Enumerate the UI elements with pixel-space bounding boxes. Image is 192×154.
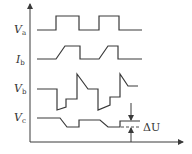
timing-diagram: Va Ib Vb Vc ΔU xyxy=(0,0,192,154)
waveform-va xyxy=(37,16,142,30)
delta-u-label: ΔU xyxy=(143,121,160,134)
label-va: Va xyxy=(14,23,26,37)
label-vc: Vc xyxy=(14,111,26,125)
waveform-ib xyxy=(37,46,142,59)
label-vb: Vb xyxy=(14,82,27,96)
label-ib: Ib xyxy=(15,53,25,67)
waveform-vc xyxy=(37,118,140,127)
waveform-vb xyxy=(37,74,138,110)
